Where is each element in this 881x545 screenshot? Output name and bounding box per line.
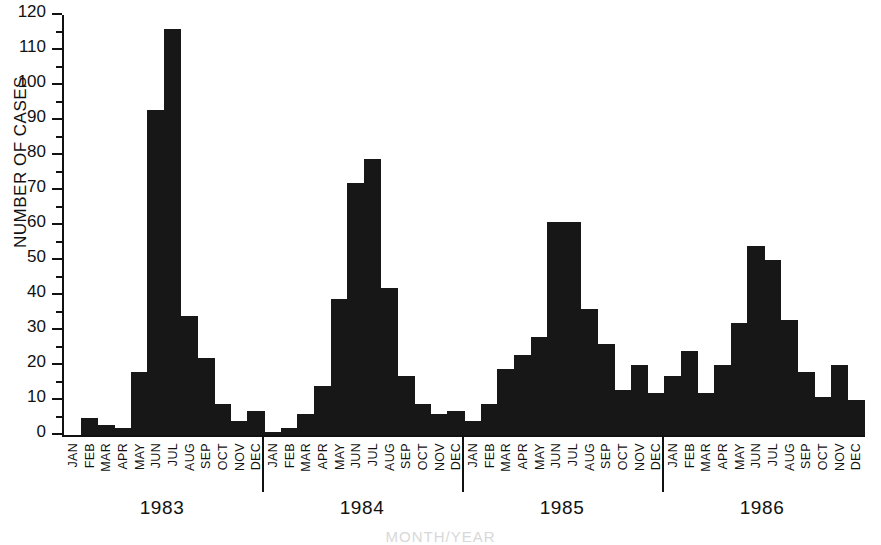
y-tick-minor: [56, 416, 62, 418]
x-tick-month-label: AUG: [583, 443, 597, 489]
x-tick-month: MAR: [297, 437, 314, 497]
x-tick-month: JUN: [547, 437, 564, 497]
bar: [181, 316, 198, 435]
x-tick-month-label: MAY: [533, 443, 547, 489]
bar: [397, 376, 414, 436]
y-tick-label: 110: [6, 37, 46, 57]
bar: [781, 320, 798, 436]
x-tick-month: MAR: [97, 437, 114, 497]
bar: [581, 309, 598, 435]
x-tick-month-label: AUG: [183, 443, 197, 489]
y-tick-minor: [56, 101, 62, 103]
bar: [747, 246, 764, 435]
x-tick-month: MAY: [131, 437, 148, 497]
x-tick-month: AUG: [181, 437, 198, 497]
x-tick-month: APR: [114, 437, 131, 497]
x-axis-title: MONTH/YEAR: [0, 528, 881, 545]
y-tick-minor: [56, 241, 62, 243]
y-tick-major: 80: [52, 153, 62, 155]
y-tick-major: 30: [52, 328, 62, 330]
bar: [564, 222, 581, 436]
bar: [364, 159, 381, 436]
x-tick-month: SEP: [397, 437, 414, 497]
x-tick-month: JUL: [164, 437, 181, 497]
bar: [347, 183, 364, 435]
x-tick-month-label: NOV: [233, 443, 247, 489]
x-tick-month: MAY: [331, 437, 348, 497]
x-tick-month: NOV: [631, 437, 648, 497]
bar: [447, 411, 464, 436]
y-tick-major: 20: [52, 363, 62, 365]
bar: [481, 404, 498, 436]
x-tick-month-label: OCT: [216, 443, 230, 489]
y-tick-minor: [56, 311, 62, 313]
x-tick-month: FEB: [681, 437, 698, 497]
bar: [414, 404, 431, 436]
x-tick-month-label: MAR: [499, 443, 513, 489]
year-separator: [262, 437, 264, 492]
y-tick-major: 50: [52, 258, 62, 260]
y-tick-minor: [56, 381, 62, 383]
x-tick-month: OCT: [614, 437, 631, 497]
x-tick-month-label: JUN: [349, 443, 363, 489]
x-tick-month-label: JAN: [666, 443, 680, 489]
x-tick-month: MAR: [697, 437, 714, 497]
bar: [831, 365, 848, 435]
x-tick-month-label: OCT: [416, 443, 430, 489]
x-tick-month: NOV: [431, 437, 448, 497]
x-tick-month-label: SEP: [599, 443, 613, 489]
bar: [731, 323, 748, 435]
bar: [231, 421, 248, 435]
bar: [697, 393, 714, 435]
x-tick-month-label: JAN: [466, 443, 480, 489]
bar: [714, 365, 731, 435]
bar: [247, 411, 264, 436]
x-tick-month-label: JUL: [166, 443, 180, 489]
x-tick-month-label: APR: [116, 443, 130, 489]
x-tick-month: JUL: [364, 437, 381, 497]
x-tick-month-label: OCT: [616, 443, 630, 489]
bar: [314, 386, 331, 435]
bar: [197, 358, 214, 435]
y-tick-label: 50: [6, 247, 46, 267]
bar: [514, 355, 531, 436]
x-tick-month-label: JUN: [749, 443, 763, 489]
x-tick-month-label: AUG: [383, 443, 397, 489]
x-tick-month-label: FEB: [683, 443, 697, 489]
y-tick-major: 0: [52, 433, 62, 435]
y-tick-minor: [56, 206, 62, 208]
x-tick-month: JUN: [147, 437, 164, 497]
x-tick-month-label: NOV: [633, 443, 647, 489]
bar: [331, 299, 348, 436]
x-tick-month: JAN: [464, 437, 481, 497]
x-tick-month: APR: [514, 437, 531, 497]
bar: [647, 393, 664, 435]
y-tick-major: 110: [52, 48, 62, 50]
y-tick-minor: [56, 346, 62, 348]
x-tick-month-label: JAN: [66, 443, 80, 489]
bar: [164, 29, 181, 435]
bar: [631, 365, 648, 435]
x-tick-month-label: MAR: [699, 443, 713, 489]
y-tick-label: 60: [6, 212, 46, 232]
x-tick-month: APR: [314, 437, 331, 497]
bar-chart: NUMBER OF CASES 010203040506070809010011…: [0, 0, 881, 545]
bar: [147, 110, 164, 436]
x-tick-month: JAN: [664, 437, 681, 497]
bar: [664, 376, 681, 436]
x-tick-month-label: FEB: [83, 443, 97, 489]
x-tick-month-label: MAY: [133, 443, 147, 489]
year-separator: [462, 437, 464, 492]
bar: [764, 260, 781, 435]
y-tick-label: 40: [6, 282, 46, 302]
x-tick-month: SEP: [797, 437, 814, 497]
x-tick-month: JUL: [564, 437, 581, 497]
bar: [681, 351, 698, 435]
x-tick-month: OCT: [414, 437, 431, 497]
bar: [797, 372, 814, 435]
y-tick-major: 90: [52, 118, 62, 120]
y-tick-label: 20: [6, 352, 46, 372]
year-separator: [662, 437, 664, 492]
bar: [114, 428, 131, 435]
x-tick-month: MAY: [531, 437, 548, 497]
